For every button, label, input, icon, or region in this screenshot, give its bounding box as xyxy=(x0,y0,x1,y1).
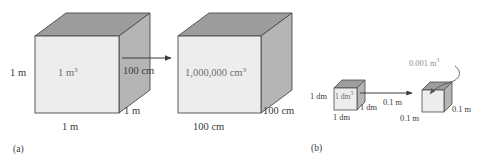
panel-b-cube2-callout-label: 0.001 m3 xyxy=(409,60,439,68)
panel-a-cube1-face-label: 1 m3 xyxy=(58,68,78,79)
cube-front-face xyxy=(422,90,444,112)
panel-a-cube2-depth-label: 100 cm xyxy=(263,106,294,117)
panel-b-cube1-face-label-exponent: 3 xyxy=(350,90,353,96)
panel-b-cube1-face-label: 1 dm3 xyxy=(335,93,353,101)
panel-b-cube1-width-label: 1 dm xyxy=(333,114,350,122)
panel-b-cube2-callout-label-text: 0.001 m xyxy=(409,59,436,68)
panel-a-cube1-face-label-text: 1 m xyxy=(58,67,74,78)
panel-b-cube2-depth-label: 0.1 m xyxy=(452,106,471,114)
panel-b-cube1-face-label-text: 1 dm xyxy=(335,92,350,101)
panel-b-tag: (b) xyxy=(311,144,322,154)
panel-a-cube2-face-label-text: 1,000,000 cm xyxy=(185,67,242,78)
panel-a-cube1-width-label: 1 m xyxy=(62,122,78,133)
panel-a-cube-1 xyxy=(35,13,150,113)
panel-a-cube1-height-label: 1 m xyxy=(10,68,26,79)
panel-b-cube-2 xyxy=(422,82,452,112)
panel-b-cube1-depth-label: 1 dm xyxy=(360,104,377,112)
panel-b-arrow-label: 0.1 m xyxy=(383,99,402,107)
panel-b-cube1-height-label: 1 dm xyxy=(310,93,327,101)
panel-a-cube2-face-label: 1,000,000 cm3 xyxy=(185,68,246,79)
panel-a-cube-2 xyxy=(178,13,292,113)
panel-a-arrow-label: 100 cm xyxy=(123,66,154,77)
panel-a-cube2-width-label: 100 cm xyxy=(193,122,224,133)
panel-a-cube1-face-label-exponent: 3 xyxy=(74,66,78,74)
panel-a-cube1-depth-label: 1 m xyxy=(124,106,140,117)
panel-a-tag: (a) xyxy=(13,145,24,155)
volume-conversion-figure: 1 m 1 m3 1 m 1 m 100 cm 1,000,000 cm3 10… xyxy=(0,0,494,165)
panel-b-cube2-width-label: 0.1 m xyxy=(400,115,419,123)
panel-b-cube2-callout-label-exponent: 3 xyxy=(436,57,439,63)
panel-a-cube2-face-label-exponent: 3 xyxy=(242,66,246,74)
figure-canvas xyxy=(0,0,494,165)
